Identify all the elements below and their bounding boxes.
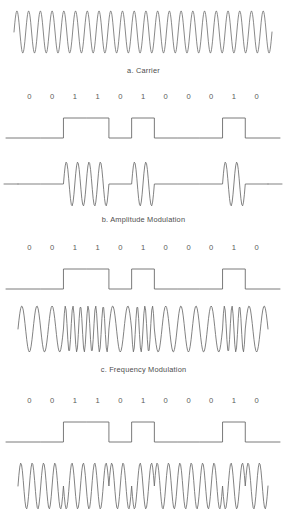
bit-label-frequency-10: 0 xyxy=(250,243,264,252)
bit-label-frequency-7: 0 xyxy=(182,243,196,252)
amplitude-modulation-panel xyxy=(0,150,287,210)
bit-labels-frequency: 00110100010 xyxy=(0,243,287,255)
amplitude-modulation-waveform xyxy=(0,150,287,210)
bit-label-frequency-6: 0 xyxy=(159,243,173,252)
bit-label-amplitude-9: 1 xyxy=(227,92,241,101)
bit-label-frequency-4: 0 xyxy=(113,243,127,252)
carrier-waveform-panel xyxy=(0,4,287,60)
bit-label-phase-2: 1 xyxy=(68,396,82,405)
bit-label-amplitude-7: 0 xyxy=(182,92,196,101)
bit-label-frequency-5: 1 xyxy=(136,243,150,252)
frequency-modulation-waveform xyxy=(0,298,287,360)
bit-label-amplitude-3: 1 xyxy=(91,92,105,101)
bit-label-amplitude-2: 1 xyxy=(68,92,82,101)
bit-label-amplitude-8: 0 xyxy=(204,92,218,101)
bit-label-phase-6: 0 xyxy=(159,396,173,405)
phase-modulation-panel xyxy=(0,455,287,517)
digital-signal-phase-panel xyxy=(0,410,287,450)
caption-frequency-modulation: c. Frequency Modulation xyxy=(0,365,287,374)
bit-label-phase-9: 1 xyxy=(227,396,241,405)
bit-label-frequency-2: 1 xyxy=(68,243,82,252)
digital-signal-amplitude xyxy=(0,106,287,146)
bit-labels-amplitude: 00110100010 xyxy=(0,92,287,104)
bit-label-frequency-1: 0 xyxy=(45,243,59,252)
bit-label-phase-1: 0 xyxy=(45,396,59,405)
frequency-modulation-panel xyxy=(0,298,287,360)
bit-label-phase-3: 1 xyxy=(91,396,105,405)
bit-label-phase-10: 0 xyxy=(250,396,264,405)
bit-label-frequency-3: 1 xyxy=(91,243,105,252)
bit-label-frequency-0: 0 xyxy=(22,243,36,252)
digital-signal-frequency-panel xyxy=(0,257,287,297)
bit-label-frequency-8: 0 xyxy=(204,243,218,252)
caption-carrier: a. Carrier xyxy=(0,66,287,75)
digital-signal-phase xyxy=(0,410,287,450)
bit-label-amplitude-5: 1 xyxy=(136,92,150,101)
modulation-figure: a. Carrier 00110100010 b. Amplitude Modu… xyxy=(0,0,287,521)
bit-label-amplitude-0: 0 xyxy=(22,92,36,101)
bit-label-phase-0: 0 xyxy=(22,396,36,405)
bit-label-amplitude-10: 0 xyxy=(250,92,264,101)
phase-modulation-waveform xyxy=(0,455,287,517)
bit-label-phase-7: 0 xyxy=(182,396,196,405)
bit-label-phase-5: 1 xyxy=(136,396,150,405)
digital-signal-frequency xyxy=(0,257,287,297)
caption-amplitude-modulation: b. Amplitude Modulation xyxy=(0,215,287,224)
bit-label-amplitude-6: 0 xyxy=(159,92,173,101)
bit-label-phase-8: 0 xyxy=(204,396,218,405)
carrier-waveform xyxy=(0,4,287,60)
bit-label-amplitude-1: 0 xyxy=(45,92,59,101)
digital-signal-amplitude-panel xyxy=(0,106,287,146)
bit-label-phase-4: 0 xyxy=(113,396,127,405)
bit-label-amplitude-4: 0 xyxy=(113,92,127,101)
bit-label-frequency-9: 1 xyxy=(227,243,241,252)
bit-labels-phase: 00110100010 xyxy=(0,396,287,408)
